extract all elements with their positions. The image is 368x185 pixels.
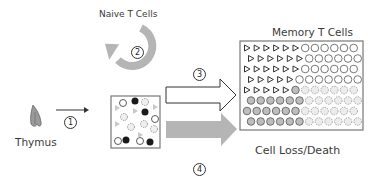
arrow-thymus-to-naive (56, 107, 89, 113)
memory-cell-box (240, 41, 363, 130)
memory-t-cells-label: Memory T Cells (272, 26, 353, 38)
thymus-label: Thymus (15, 136, 57, 148)
step-3-badge: 3 (193, 68, 206, 81)
naive-cell-box (111, 96, 160, 148)
naive-t-cells-label: Naive T Cells (99, 9, 157, 19)
arrow-to-loss (166, 113, 237, 146)
step-1-badge: 1 (64, 116, 77, 129)
cell-loss-death-label: Cell Loss/Death (255, 144, 340, 157)
thymus-icon (31, 105, 42, 126)
circular-arrow-icon (102, 28, 152, 66)
step-4-badge: 4 (193, 163, 206, 176)
step-2-badge: 2 (131, 46, 144, 59)
arrow-to-memory (166, 79, 236, 111)
